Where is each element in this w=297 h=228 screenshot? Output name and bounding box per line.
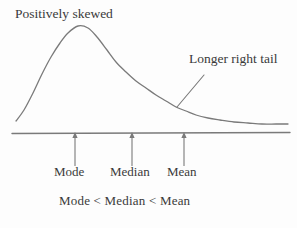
- tick-label-mode: Mode: [54, 164, 84, 180]
- longer-right-tail-label: Longer right tail: [189, 51, 277, 67]
- distribution-curve: [16, 26, 288, 124]
- skewed-distribution-figure: Positively skewed Longer right tail Mode…: [0, 0, 297, 228]
- mode-median-mean-inequality: Mode < Median < Mean: [59, 193, 190, 209]
- x-axis-line: [12, 133, 290, 134]
- tick-label-mean: Mean: [167, 164, 197, 180]
- marker-arrow-group: [72, 132, 186, 166]
- tick-label-median: Median: [110, 164, 150, 180]
- tail-pointer-line: [177, 75, 204, 107]
- positively-skewed-title: Positively skewed: [15, 6, 113, 22]
